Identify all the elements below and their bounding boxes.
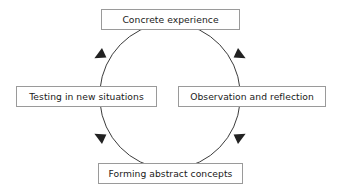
node-observation-and-reflection: Observation and reflection (178, 86, 326, 107)
arc-testing-to-concrete (100, 23, 164, 89)
arc-forming-to-testing (100, 103, 164, 169)
experiential-learning-cycle-diagram: Concrete experience Observation and refl… (0, 0, 340, 190)
arrowhead-observation-to-forming (234, 134, 246, 144)
arrowhead-forming-to-testing (94, 134, 106, 144)
node-testing-in-new-situations-label: Testing in new situations (29, 92, 143, 101)
arrowhead-concrete-to-observation (234, 48, 246, 58)
arc-observation-to-forming (176, 103, 240, 169)
node-forming-abstract-concepts: Forming abstract concepts (98, 163, 243, 184)
node-observation-and-reflection-label: Observation and reflection (190, 92, 314, 101)
arrowhead-testing-to-concrete (94, 48, 106, 58)
node-concrete-experience-label: Concrete experience (122, 15, 218, 24)
node-concrete-experience: Concrete experience (101, 9, 240, 30)
node-testing-in-new-situations: Testing in new situations (16, 86, 157, 107)
node-forming-abstract-concepts-label: Forming abstract concepts (109, 169, 233, 178)
arc-concrete-to-observation (176, 23, 240, 89)
